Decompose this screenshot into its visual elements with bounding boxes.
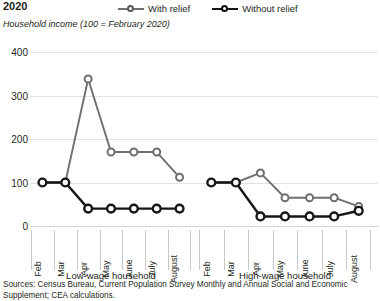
page-title: 2020 (3, 0, 27, 12)
data-point-marker[interactable] (306, 194, 313, 201)
series-layer (0, 45, 380, 230)
x-axis-tick: Apr (77, 230, 100, 270)
data-point-marker[interactable] (176, 205, 184, 213)
x-axis-tick: Feb (199, 230, 224, 270)
x-axis-tick: Mar (54, 230, 77, 270)
data-point-marker[interactable] (107, 205, 115, 213)
data-point-marker[interactable] (232, 179, 240, 187)
data-point-marker[interactable] (85, 75, 92, 82)
x-axis-tick: Apr (248, 230, 273, 270)
x-axis: FebMarAprMayJuneJulyAugustLow-wage house… (0, 230, 380, 270)
data-point-marker[interactable] (257, 213, 265, 221)
legend-label: Without relief (242, 3, 297, 14)
series-line (42, 79, 179, 183)
data-point-marker[interactable] (207, 179, 215, 187)
x-axis-tick: June (122, 230, 145, 270)
x-axis-tick: Mar (224, 230, 249, 270)
legend-label: With relief (148, 3, 190, 14)
data-point-marker[interactable] (84, 205, 92, 213)
data-point-marker[interactable] (281, 213, 289, 221)
data-point-marker[interactable] (130, 149, 137, 156)
data-point-marker[interactable] (39, 179, 47, 187)
legend-item-with-relief[interactable]: With relief (118, 3, 190, 14)
source-note: Sources: Census Bureau, Current Populati… (3, 280, 377, 301)
x-axis-tick: May (273, 230, 298, 270)
legend-item-without-relief[interactable]: Without relief (212, 3, 297, 14)
data-point-marker[interactable] (153, 205, 161, 213)
data-point-marker[interactable] (331, 194, 338, 201)
legend-marker-icon (212, 4, 238, 14)
data-point-marker[interactable] (176, 174, 183, 181)
data-point-marker[interactable] (61, 179, 69, 187)
data-point-marker[interactable] (257, 169, 264, 176)
source-line-2: Supplement; CEA calculations. (3, 291, 377, 301)
x-axis-tick: August (346, 230, 371, 270)
x-axis-tick-group: FebMarAprMayJuneJulyAugust (199, 230, 371, 270)
x-axis-tick: May (100, 230, 123, 270)
x-axis-tick: June (297, 230, 322, 270)
x-axis-tick: August (168, 230, 191, 270)
data-point-marker[interactable] (306, 213, 314, 221)
data-point-marker[interactable] (282, 194, 289, 201)
x-axis-tick-group: FebMarAprMayJuneJulyAugust (31, 230, 191, 270)
data-point-marker[interactable] (130, 205, 138, 213)
chart-subtitle: Household income (100 = February 2020) (3, 19, 170, 29)
x-axis-tick: Feb (31, 230, 54, 270)
source-line-1: Sources: Census Bureau, Current Populati… (3, 280, 377, 291)
data-point-marker[interactable] (153, 149, 160, 156)
x-axis-tick: July (145, 230, 168, 270)
plot-area: 0100200300400 (0, 45, 380, 230)
x-axis-tick: July (322, 230, 347, 270)
data-point-marker[interactable] (108, 149, 115, 156)
chart-legend: With relief Without relief (118, 3, 298, 14)
data-point-marker[interactable] (330, 213, 338, 221)
legend-marker-icon (118, 4, 144, 14)
data-point-marker[interactable] (355, 207, 363, 215)
